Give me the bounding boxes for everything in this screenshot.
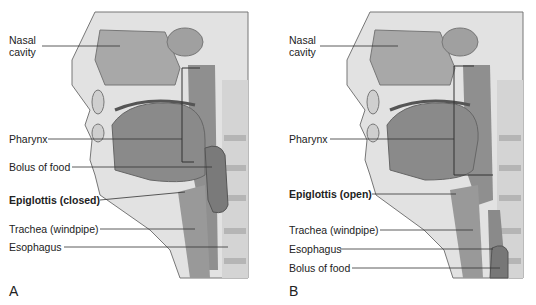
label-pharynx: Pharynx: [9, 133, 48, 145]
panel-a: Nasalcavity Pharynx Bolus of food Epiglo…: [0, 0, 268, 305]
panel-b: Nasalcavity Pharynx Epiglottis (open) Tr…: [268, 0, 536, 305]
label-epiglottis: Epiglottis (open): [289, 188, 372, 200]
label-nasal-1: Nasal: [9, 34, 36, 46]
label-nasal-2: cavity: [9, 46, 36, 58]
label-trachea: Trachea (windpipe): [289, 224, 379, 236]
label-nasal-1: Nasal: [289, 34, 316, 46]
label-bolus: Bolus of food: [9, 161, 70, 173]
label-epiglottis: Epiglottis (closed): [9, 194, 100, 206]
anatomy-illustration-a: [0, 0, 268, 305]
label-esophagus: Esophagus: [289, 243, 342, 255]
panel-letter-b: B: [289, 283, 298, 299]
label-nasal-2: cavity: [289, 46, 316, 58]
label-pharynx: Pharynx: [289, 133, 328, 145]
panel-letter-a: A: [9, 283, 18, 299]
label-nasal-cavity: Nasalcavity: [9, 34, 36, 58]
label-trachea: Trachea (windpipe): [9, 223, 99, 235]
label-nasal-cavity: Nasalcavity: [289, 34, 316, 58]
label-esophagus: Esophagus: [9, 241, 62, 253]
label-bolus: Bolus of food: [289, 262, 350, 274]
